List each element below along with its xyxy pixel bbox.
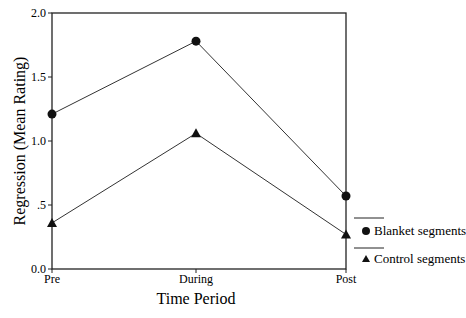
y-axis-label: Regression (Mean Rating) — [11, 57, 29, 226]
y-tick-label: 2.0 — [31, 6, 46, 20]
triangle-marker — [341, 229, 351, 238]
legend-label-control: Control segments — [374, 251, 465, 266]
y-tick-label: .5 — [37, 198, 46, 212]
x-tick-label: Pre — [44, 272, 60, 286]
legend-circle-icon — [362, 227, 370, 235]
plot-frame — [52, 13, 346, 269]
x-axis-label: Time Period — [157, 290, 236, 307]
x-tick-label: During — [179, 272, 213, 286]
legend-triangle-icon — [362, 255, 370, 262]
y-tick-label: 1.0 — [31, 134, 46, 148]
circle-marker — [192, 37, 201, 46]
series-line — [52, 133, 346, 234]
triangle-marker — [47, 218, 57, 227]
x-tick-label: Post — [336, 272, 357, 286]
triangle-marker — [191, 128, 201, 137]
line-chart: 0.0.51.01.52.0PreDuringPostTime PeriodRe… — [0, 0, 466, 318]
circle-marker — [48, 110, 57, 119]
legend-label-blanket: Blanket segments — [374, 223, 466, 238]
circle-marker — [342, 192, 351, 201]
series-line — [52, 41, 346, 196]
y-tick-label: 1.5 — [31, 70, 46, 84]
